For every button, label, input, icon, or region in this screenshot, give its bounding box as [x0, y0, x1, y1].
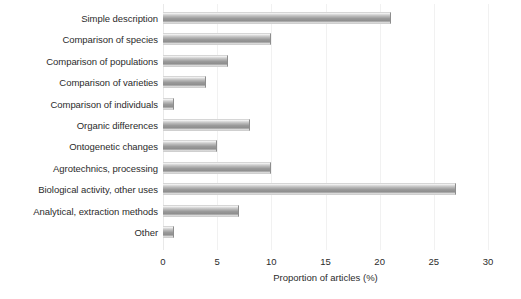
x-axis-title: Proportion of articles (%) — [163, 272, 488, 283]
gridline-20 — [380, 4, 381, 250]
gridline-15 — [326, 4, 327, 250]
x-tick-label: 5 — [215, 256, 220, 267]
category-label: Comparison of populations — [0, 56, 158, 67]
x-tick-label: 25 — [429, 256, 440, 267]
gridline-30 — [488, 4, 489, 250]
category-label: Agrotechnics, processing — [0, 163, 158, 174]
x-tick-label: 10 — [266, 256, 277, 267]
category-label: Comparison of species — [0, 34, 158, 45]
bar — [163, 226, 174, 238]
bar — [163, 98, 174, 110]
plot-area — [163, 0, 488, 250]
category-label: Comparison of varieties — [0, 77, 158, 88]
x-tick-label: 20 — [374, 256, 385, 267]
gridline-10 — [271, 4, 272, 250]
bar — [163, 119, 250, 131]
x-axis: 051015202530 — [163, 250, 488, 270]
x-tick-label: 0 — [160, 256, 165, 267]
category-label: Simple description — [0, 13, 158, 24]
category-label: Comparison of individuals — [0, 99, 158, 110]
category-label: Biological activity, other uses — [0, 184, 158, 195]
gridline-25 — [434, 4, 435, 250]
bar — [163, 205, 239, 217]
bar — [163, 12, 391, 24]
bar — [163, 55, 228, 67]
bar — [163, 140, 217, 152]
x-tick-label: 15 — [320, 256, 331, 267]
category-label: Other — [0, 227, 158, 238]
category-label-column: Simple descriptionComparison of speciesC… — [0, 0, 158, 250]
bar-chart: Simple descriptionComparison of speciesC… — [0, 0, 521, 299]
bar — [163, 183, 456, 195]
category-label: Ontogenetic changes — [0, 141, 158, 152]
bar — [163, 162, 271, 174]
category-label: Organic differences — [0, 120, 158, 131]
bar — [163, 76, 206, 88]
bar — [163, 33, 271, 45]
x-tick-label: 30 — [483, 256, 494, 267]
category-label: Analytical, extraction methods — [0, 206, 158, 217]
